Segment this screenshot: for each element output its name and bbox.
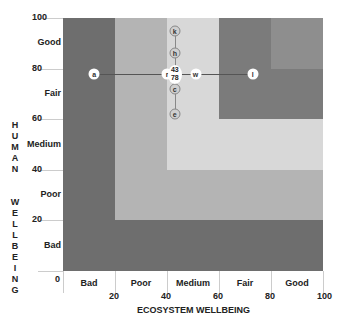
y-tick-label: 80 bbox=[32, 63, 42, 73]
x-tick-line bbox=[63, 271, 64, 293]
data-point-e: e bbox=[169, 109, 180, 120]
center-marker: 4378 bbox=[168, 65, 182, 84]
data-point-h: h bbox=[169, 48, 180, 59]
x-tick-line bbox=[115, 271, 116, 293]
y-category-label: Good bbox=[38, 37, 62, 47]
x-tick-label: 80 bbox=[265, 291, 275, 301]
x-tick-line bbox=[219, 271, 220, 293]
y-category-label: Medium bbox=[27, 139, 61, 149]
center-y-value: 78 bbox=[168, 74, 182, 82]
x-category-label: Good bbox=[285, 278, 309, 288]
data-point-k: k bbox=[169, 25, 180, 36]
x-category-label: Poor bbox=[131, 278, 152, 288]
data-point-w: w bbox=[190, 68, 201, 79]
y-category-label: Bad bbox=[44, 240, 61, 250]
y-tick-label: 100 bbox=[32, 12, 47, 22]
x-tick-label: 60 bbox=[213, 291, 223, 301]
data-point-l: l bbox=[247, 68, 258, 79]
x-tick-line bbox=[323, 271, 324, 293]
x-tick-label: 40 bbox=[161, 291, 171, 301]
y-category-label: Fair bbox=[44, 88, 61, 98]
y-tick-label: 40 bbox=[32, 164, 42, 174]
center-x-value: 43 bbox=[168, 66, 182, 74]
x-category-label: Fair bbox=[237, 278, 254, 288]
chart-root: HUMANWELLBEING ECOSYSTEM WELLBEING 10080… bbox=[0, 0, 342, 327]
x-tick-line bbox=[167, 271, 168, 293]
x-tick-line bbox=[271, 271, 272, 293]
y-axis-title: HUMANWELLBEING bbox=[9, 120, 21, 296]
data-point-c: c bbox=[169, 83, 180, 94]
x-category-label: Medium bbox=[176, 278, 210, 288]
x-tick-label: 100 bbox=[317, 291, 332, 301]
y-tick-label: 20 bbox=[32, 214, 42, 224]
band-good bbox=[271, 18, 323, 69]
y-tick-label: 60 bbox=[32, 113, 42, 123]
x-tick-label: 0 bbox=[55, 274, 60, 284]
y-category-label: Poor bbox=[40, 189, 61, 199]
x-category-label: Bad bbox=[80, 278, 97, 288]
data-point-a: a bbox=[89, 68, 100, 79]
y-tick-line bbox=[38, 271, 63, 272]
x-tick-label: 20 bbox=[109, 291, 119, 301]
x-axis-title: ECOSYSTEM WELLBEING bbox=[137, 305, 250, 315]
